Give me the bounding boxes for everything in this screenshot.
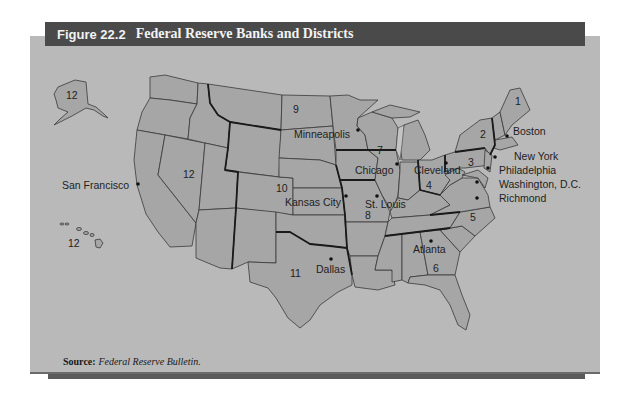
district-number-9: 9 <box>293 103 299 115</box>
federal-reserve-map: 1 2 3 4 5 6 7 8 9 10 11 12 12 12 San Fra… <box>0 0 630 398</box>
source-note: Source: Federal Reserve Bulletin. <box>63 356 201 367</box>
new-york-dot <box>493 155 497 159</box>
dallas-dot <box>329 257 333 261</box>
district-number-8: 8 <box>365 209 371 221</box>
san-francisco-dot <box>136 182 140 186</box>
label-richmond: Richmond <box>499 192 546 204</box>
district-number-4: 4 <box>426 179 432 191</box>
label-san-francisco: San Francisco <box>62 179 129 191</box>
district-number-7: 7 <box>377 144 383 156</box>
source-text: Federal Reserve Bulletin. <box>98 356 200 367</box>
label-new-york: New York <box>514 150 559 162</box>
philadelphia-dot <box>486 166 490 170</box>
district-number-12-alaska: 12 <box>66 89 78 101</box>
label-boston: Boston <box>513 125 546 137</box>
district-number-12-hawaii: 12 <box>68 237 80 249</box>
label-atlanta: Atlanta <box>413 243 446 255</box>
washington-dot <box>475 180 479 184</box>
district-number-2: 2 <box>480 128 486 140</box>
district-number-12-west: 12 <box>183 168 195 180</box>
chicago-dot <box>395 162 399 166</box>
district-number-5: 5 <box>470 211 476 223</box>
district-number-10: 10 <box>276 182 288 194</box>
label-st-louis: St. Louis <box>365 198 406 210</box>
district-number-6: 6 <box>433 262 439 274</box>
kansas-city-dot <box>344 194 348 198</box>
label-chicago: Chicago <box>355 164 394 176</box>
minneapolis-dot <box>356 128 360 132</box>
boston-dot <box>505 134 509 138</box>
hawaii <box>60 223 103 248</box>
label-kansas-city: Kansas City <box>285 196 342 208</box>
label-philadelphia: Philadelphia <box>499 164 556 176</box>
label-cleveland: Cleveland <box>414 164 461 176</box>
district-number-3: 3 <box>468 156 474 168</box>
source-label: Source: <box>63 356 96 367</box>
label-minneapolis: Minneapolis <box>294 128 350 140</box>
district-number-11: 11 <box>290 267 301 279</box>
richmond-dot <box>475 196 479 200</box>
label-washington-dc: Washington, D.C. <box>499 178 581 190</box>
district-number-1: 1 <box>515 95 521 107</box>
alaska <box>54 80 108 125</box>
label-dallas: Dallas <box>316 263 345 275</box>
